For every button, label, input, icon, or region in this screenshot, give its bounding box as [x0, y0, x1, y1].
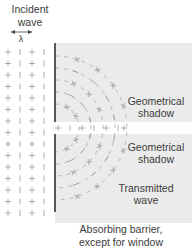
wave-crest-mark	[29, 49, 35, 55]
wave-crest-mark	[5, 72, 11, 78]
wave-crest-mark	[5, 95, 11, 101]
shadow-bottom-label-2: shadow	[138, 153, 175, 165]
wave-crest-mark	[29, 95, 35, 101]
wave-crest-mark	[5, 49, 11, 55]
shadow-bottom-label-1: Geometrical	[128, 141, 185, 153]
wave-crest-mark	[5, 187, 11, 193]
incident-wave-label-2: wave	[17, 16, 43, 28]
wave-crest-mark	[5, 118, 11, 124]
shadow-top-label-2: shadow	[138, 107, 175, 119]
wave-crest-mark	[29, 130, 35, 136]
wave-crest-mark	[5, 210, 11, 216]
wave-crest-mark	[29, 153, 35, 159]
wavelength-label: λ	[19, 34, 24, 44]
wave-crest-mark	[29, 187, 35, 193]
wave-crest-mark	[5, 164, 11, 170]
barrier-label-2: except for window	[79, 236, 163, 248]
wave-crest-mark	[5, 130, 11, 136]
wave-crest-mark	[29, 61, 35, 67]
wave-crest-mark	[29, 164, 35, 170]
wave-crest-mark	[103, 125, 109, 131]
wave-crest-mark	[55, 125, 61, 131]
wave-crest-mark	[79, 125, 85, 131]
incident-wave-label-1: Incident	[12, 3, 49, 15]
wave-crest-mark	[29, 84, 35, 90]
wave-crest-mark	[29, 176, 35, 182]
barrier-label-1: Absorbing barrier,	[80, 223, 163, 235]
wave-crest-mark	[5, 141, 11, 147]
wave-crest-mark	[29, 118, 35, 124]
transmitted-wave-label-1: Transmitted	[118, 182, 173, 194]
transmitted-wave-label-2: wave	[133, 194, 159, 206]
wave-crest-mark	[29, 199, 35, 205]
wave-crest-mark	[121, 125, 127, 131]
wave-crest-mark	[29, 141, 35, 147]
incident-wavefronts	[5, 49, 44, 216]
wave-crest-mark	[29, 107, 35, 113]
wave-crest-mark	[5, 199, 11, 205]
diffraction-diagram: Incident wave λ Geometrical shadow Geome…	[0, 0, 192, 250]
shadow-top-label-1: Geometrical	[128, 95, 185, 107]
wave-crest-mark	[5, 107, 11, 113]
wave-crest-mark	[5, 153, 11, 159]
wave-crest-mark	[29, 210, 35, 216]
wave-crest-mark	[5, 84, 11, 90]
wave-crest-mark	[5, 176, 11, 182]
wave-crest-mark	[5, 61, 11, 67]
wave-crest-mark	[29, 72, 35, 78]
